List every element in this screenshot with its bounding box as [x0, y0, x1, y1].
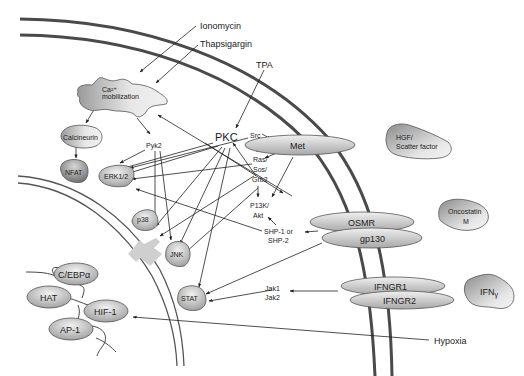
- scatter-factor-label: Scatter factor: [396, 143, 438, 150]
- p38-node: p38: [132, 210, 158, 231]
- nuclear-envelope: [18, 176, 184, 366]
- shp1-label: SHP-1 or: [264, 228, 293, 235]
- mobilization-label: mobilization: [102, 93, 139, 100]
- ca-label: Ca²⁺: [102, 86, 117, 93]
- sos-label: Sos/: [253, 166, 267, 173]
- gp130-receptor: gp130: [322, 228, 422, 248]
- shp-label: SHP-1 or SHP-2: [264, 228, 293, 244]
- nfat-node: NFAT: [61, 160, 89, 183]
- jnk-node: JNK: [166, 242, 190, 267]
- ras-sos-grb2-label: Ras/ Sos/ Grb2: [252, 156, 268, 183]
- osmr-label: OSMR: [348, 218, 376, 228]
- stat-label: STAT: [181, 295, 199, 302]
- ca-mobilization-node: Ca²⁺ mobilization: [77, 78, 167, 117]
- jak2-label: Jak2: [265, 294, 280, 301]
- hgf-label: HGF/: [396, 134, 413, 141]
- ifn-text: IFN: [480, 287, 495, 297]
- jnk-label: JNK: [170, 251, 184, 258]
- calcineurin-node: Calcineurin: [61, 125, 102, 148]
- stat-node: STAT: [178, 286, 206, 311]
- ifngr1-label: IFNGR1: [374, 282, 407, 292]
- hgf-ligand: HGF/ Scatter factor: [386, 124, 451, 159]
- hif1-node: HIF-1: [84, 300, 128, 322]
- ap1-node: AP-1: [49, 318, 93, 340]
- hat-node: HAT: [27, 286, 71, 308]
- gp130-label: gp130: [360, 234, 385, 244]
- met-receptor: Met: [245, 135, 355, 155]
- oncostatin-label: Oncostatin: [448, 208, 482, 215]
- ionomycin-label: Ionomycin: [200, 21, 241, 31]
- ifngr2-label: IFNGR2: [383, 296, 416, 306]
- hypoxia-label: Hypoxia: [434, 336, 467, 346]
- hif1-label: HIF-1: [94, 307, 117, 317]
- pi3k-akt-label: P13K/ Akt: [250, 202, 269, 219]
- oncostatin-m-ligand: Oncostatin M: [439, 199, 489, 230]
- tpa-label: TPA: [256, 60, 273, 70]
- akt-label: Akt: [253, 212, 263, 219]
- ifn-gamma-ligand: IFNγ: [464, 274, 514, 308]
- cebpa-node: C/EBPα: [54, 263, 98, 285]
- ifngr2-receptor: IFNGR2: [350, 291, 454, 309]
- erk-node: ERK1/2: [99, 165, 134, 187]
- nfat-label: NFAT: [65, 169, 83, 176]
- ras-label: Ras/: [253, 156, 267, 163]
- oncostatin-m-label: M: [463, 218, 469, 225]
- thapsigargin-label: Thapsigargin: [200, 39, 252, 49]
- ifn-gamma-subscript: γ: [495, 291, 499, 299]
- p38-label: p38: [137, 216, 149, 224]
- calcineurin-label: Calcineurin: [63, 134, 98, 141]
- nuclear-import-arrow-icon: [128, 238, 162, 266]
- erk-label: ERK1/2: [104, 173, 128, 180]
- pkc-label: PKC: [215, 131, 238, 143]
- grb2-label: Grb2: [252, 176, 268, 183]
- ap1-label: AP-1: [60, 325, 80, 335]
- signaling-diagram: Ca²⁺ mobilization Calcineurin NFAT Pyk2 …: [0, 0, 524, 376]
- hat-label: HAT: [40, 293, 58, 303]
- pyk2-label: Pyk2: [146, 142, 162, 150]
- jak-label: Jak1 Jak2: [265, 285, 280, 301]
- jak1-label: Jak1: [265, 285, 280, 292]
- shp2-label: SHP-2: [268, 237, 289, 244]
- pi3k-label: P13K/: [250, 202, 269, 209]
- cebpa-label: C/EBPα: [58, 270, 90, 280]
- met-label: Met: [290, 141, 306, 151]
